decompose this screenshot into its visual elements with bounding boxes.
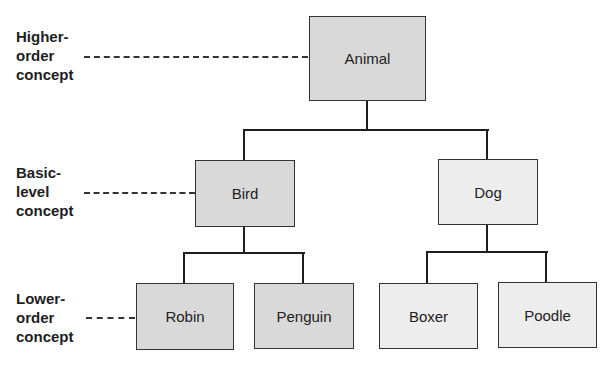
- node-bird: Bird: [195, 160, 295, 227]
- connector-to-dog: [486, 129, 488, 159]
- connector-dog-children-horizontal: [426, 251, 548, 253]
- connector-to-robin: [183, 252, 185, 283]
- connector-level1-horizontal: [243, 129, 489, 131]
- connector-to-penguin: [302, 252, 304, 283]
- dashed-leader-higher: [84, 56, 308, 58]
- node-penguin: Penguin: [254, 283, 354, 349]
- node-robin: Robin: [136, 283, 234, 350]
- connector-animal-down: [366, 100, 368, 131]
- level-label-higher-order: Higher- order concept: [16, 27, 74, 84]
- connector-bird-children-horizontal: [183, 252, 305, 254]
- dashed-leader-basic: [84, 192, 195, 194]
- node-dog: Dog: [438, 159, 538, 225]
- level-label-basic-level: Basic- level concept: [16, 163, 74, 220]
- connector-to-bird: [243, 129, 245, 160]
- node-animal: Animal: [309, 16, 426, 101]
- connector-to-poodle: [545, 251, 547, 282]
- level-label-lower-order: Lower- order concept: [16, 289, 74, 346]
- node-poodle: Poodle: [498, 282, 597, 348]
- connector-bird-down: [243, 226, 245, 254]
- node-boxer: Boxer: [379, 283, 478, 349]
- connector-to-boxer: [426, 251, 428, 283]
- dashed-leader-lower: [86, 317, 135, 319]
- connector-dog-down: [486, 224, 488, 253]
